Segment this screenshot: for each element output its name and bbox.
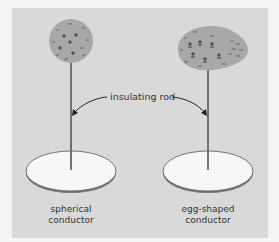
insulating-rod-label: insulating rod (110, 91, 175, 102)
left-arrow (74, 97, 107, 113)
right-caption-line1: egg-shaped (153, 204, 263, 215)
right-arrow (172, 97, 205, 113)
right-caption-line2: conductor (153, 215, 263, 226)
left-caption-line2: conductor (16, 215, 126, 226)
right-caption: egg-shaped conductor (153, 204, 263, 226)
left-caption-line1: spherical (16, 204, 126, 215)
egg-shaped-conductor-body (178, 26, 248, 70)
spherical-conductor-body (49, 19, 93, 63)
left-caption: spherical conductor (16, 204, 126, 226)
